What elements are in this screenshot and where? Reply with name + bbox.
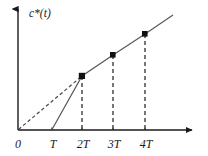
y-axis-label: c*(t) <box>29 7 51 20</box>
axes-group <box>18 9 192 130</box>
data-point-marker <box>142 31 148 37</box>
drop-lines-group <box>82 34 145 129</box>
chart-figure: c*(t) 0 T 2T 3T 4T <box>0 0 208 156</box>
origin-dashed-ray <box>19 76 83 130</box>
data-point-marker <box>79 73 85 79</box>
origin-ray-group <box>19 76 83 130</box>
data-point-marker <box>110 52 116 58</box>
x-tick-label-origin: 0 <box>15 137 21 151</box>
x-tick-label-4T: 4T <box>140 137 154 151</box>
x-tick-label-3T: 3T <box>107 137 122 151</box>
x-tick-label-T: T <box>50 137 58 151</box>
x-tick-label-2T: 2T <box>77 137 91 151</box>
plot-canvas: c*(t) 0 T 2T 3T 4T <box>0 0 208 156</box>
